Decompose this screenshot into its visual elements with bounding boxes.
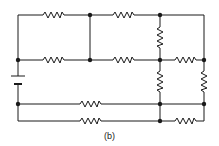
resistor-vertical-lower-right [201,71,207,92]
resistor-bottom-right [175,118,196,124]
resistor-row2-right [175,57,196,63]
resistor-top-left [43,12,64,18]
battery-icon [11,76,25,84]
junction-nodes [16,13,206,123]
resistor-top-right [113,12,134,18]
resistor-row2-left [43,57,64,63]
figure-caption: (b) [0,131,219,141]
resistor-vertical-lower-left [157,71,163,92]
resistor-row3 [80,101,101,107]
resistor-vertical-upper [157,27,163,48]
resistor-row2-middle [113,57,134,63]
circuit-schematic [0,0,219,146]
wires [18,15,204,121]
resistor-bottom-left [80,118,101,124]
